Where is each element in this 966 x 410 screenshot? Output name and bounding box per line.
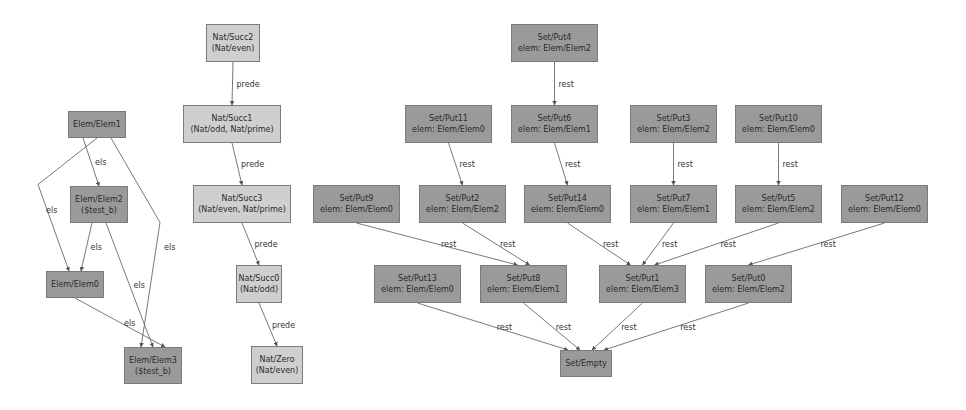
node-title: Set/Put4	[538, 32, 572, 43]
graph-node-elem0[interactable]: Elem/Elem0	[46, 271, 104, 298]
graph-node-zero[interactable]: Nat/Zero(Nat/even)	[251, 346, 303, 384]
graph-node-put3[interactable]: Set/Put3elem: Elem/Elem2	[630, 105, 717, 143]
node-detail: elem: Elem/Elem2	[637, 124, 710, 135]
graph-node-empty[interactable]: Set/Empty	[560, 350, 612, 377]
node-title: Nat/Succ0	[239, 273, 280, 284]
graph-node-put2[interactable]: Set/Put2elem: Elem/Elem2	[419, 185, 506, 223]
node-title: Set/Empty	[565, 358, 607, 369]
node-detail: (Nat/even, Nat/prime)	[198, 204, 286, 215]
graph-node-put1[interactable]: Set/Put1elem: Elem/Elem3	[599, 265, 686, 303]
node-title: Elem/Elem0	[51, 279, 99, 290]
edge-label: rest	[721, 240, 736, 249]
node-detail: elem: Elem/Elem1	[487, 284, 560, 295]
node-title: Set/Put11	[429, 113, 468, 124]
node-detail: (Nat/even)	[212, 43, 255, 54]
edge-label: prede	[255, 240, 278, 249]
node-title: Set/Put3	[657, 113, 691, 124]
edge-label: prede	[272, 321, 295, 330]
graph-node-put12[interactable]: Set/Put12elem: Elem/Elem0	[841, 185, 928, 223]
edge-label: rest	[565, 160, 580, 169]
edge-put2-to-put8	[463, 223, 530, 265]
graph-node-put14[interactable]: Set/Put14elem: Elem/Elem0	[524, 185, 611, 223]
node-title: Set/Put12	[865, 193, 904, 204]
node-title: Elem/Elem3	[129, 355, 177, 366]
node-detail: elem: Elem/Elem0	[848, 204, 921, 215]
edge-label: rest	[603, 240, 618, 249]
edge-label: els	[164, 243, 175, 252]
graph-canvas: elselselselselselspredepredepredepredere…	[0, 0, 966, 410]
graph-node-elem1[interactable]: Elem/Elem1	[68, 111, 126, 138]
node-title: Set/Put10	[759, 113, 798, 124]
graph-node-put0[interactable]: Set/Put0elem: Elem/Elem2	[705, 265, 792, 303]
edge-label: rest	[460, 160, 475, 169]
edge-label: rest	[662, 240, 677, 249]
edge-put8-to-empty	[524, 303, 581, 350]
node-title: Nat/Succ2	[213, 32, 254, 43]
edge-label: prede	[241, 160, 264, 169]
graph-node-put8[interactable]: Set/Put8elem: Elem/Elem1	[480, 265, 567, 303]
edge-label: rest	[556, 323, 571, 332]
graph-node-succ1[interactable]: Nat/Succ1(Nat/odd, Nat/prime)	[183, 105, 281, 143]
node-title: Nat/Succ3	[222, 193, 263, 204]
node-detail: elem: Elem/Elem1	[518, 124, 591, 135]
graph-node-succ0[interactable]: Nat/Succ0(Nat/odd)	[236, 265, 282, 303]
edge-label: rest	[783, 160, 798, 169]
node-title: Set/Put2	[446, 193, 480, 204]
node-title: Set/Put5	[762, 193, 796, 204]
node-title: Nat/Succ1	[212, 113, 253, 124]
node-title: Set/Put1	[626, 273, 660, 284]
edge-label: els	[134, 281, 145, 290]
edge-put14-to-put1	[568, 223, 631, 265]
node-title: Set/Put6	[538, 113, 572, 124]
node-detail: (Nat/odd)	[240, 284, 278, 295]
node-title: Elem/Elem2	[75, 194, 123, 205]
node-detail: elem: Elem/Elem0	[320, 204, 393, 215]
node-detail: elem: Elem/Elem1	[637, 204, 710, 215]
edge-label: rest	[500, 240, 515, 249]
graph-node-put6[interactable]: Set/Put6elem: Elem/Elem1	[511, 105, 598, 143]
node-detail: elem: Elem/Elem2	[742, 204, 815, 215]
node-title: Set/Put0	[732, 273, 766, 284]
graph-node-put7[interactable]: Set/Put7elem: Elem/Elem1	[630, 185, 717, 223]
graph-node-succ3[interactable]: Nat/Succ3(Nat/even, Nat/prime)	[193, 185, 291, 223]
node-detail: ($test_b)	[81, 205, 117, 216]
graph-node-put13[interactable]: Set/Put13elem: Elem/Elem0	[374, 265, 461, 303]
node-title: Set/Put8	[507, 273, 541, 284]
node-title: Elem/Elem1	[73, 119, 121, 130]
graph-node-elem3[interactable]: Elem/Elem3($test_b)	[124, 347, 182, 384]
edge-elem2-to-elem3	[106, 223, 153, 347]
node-detail: (Nat/even)	[256, 365, 299, 376]
graph-node-put11[interactable]: Set/Put11elem: Elem/Elem0	[405, 105, 492, 143]
graph-node-elem2[interactable]: Elem/Elem2($test_b)	[70, 186, 128, 223]
edge-label: rest	[821, 240, 836, 249]
graph-node-put4[interactable]: Set/Put4elem: Elem/Elem2	[511, 24, 598, 62]
node-title: Set/Put7	[657, 193, 691, 204]
graph-node-put5[interactable]: Set/Put5elem: Elem/Elem2	[735, 185, 822, 223]
node-title: Set/Put13	[398, 273, 437, 284]
graph-node-put9[interactable]: Set/Put9elem: Elem/Elem0	[313, 185, 400, 223]
node-detail: elem: Elem/Elem0	[742, 124, 815, 135]
edge-label: rest	[559, 80, 574, 89]
graph-node-succ2[interactable]: Nat/Succ2(Nat/even)	[206, 24, 260, 62]
node-title: Nat/Zero	[259, 354, 294, 365]
edge-label: rest	[680, 323, 695, 332]
node-detail: elem: Elem/Elem0	[381, 284, 454, 295]
node-detail: elem: Elem/Elem0	[531, 204, 604, 215]
node-title: Set/Put9	[340, 193, 374, 204]
graph-node-put10[interactable]: Set/Put10elem: Elem/Elem0	[735, 105, 822, 143]
node-detail: elem: Elem/Elem0	[412, 124, 485, 135]
edge-put13-to-empty	[418, 303, 569, 350]
edge-label: rest	[497, 323, 512, 332]
edge-put9-to-put8	[357, 223, 518, 265]
edge-label: rest	[441, 240, 456, 249]
edge-elem1-to-elem3	[111, 138, 160, 347]
edge-label: els	[91, 243, 102, 252]
edge-label: prede	[237, 80, 260, 89]
node-detail: elem: Elem/Elem2	[426, 204, 499, 215]
node-title: Set/Put14	[548, 193, 587, 204]
edge-put12-to-put0	[749, 223, 885, 265]
node-detail: elem: Elem/Elem2	[518, 43, 591, 54]
edge-succ2-to-succ1	[232, 62, 233, 105]
node-detail: elem: Elem/Elem2	[712, 284, 785, 295]
node-detail: (Nat/odd, Nat/prime)	[190, 124, 273, 135]
